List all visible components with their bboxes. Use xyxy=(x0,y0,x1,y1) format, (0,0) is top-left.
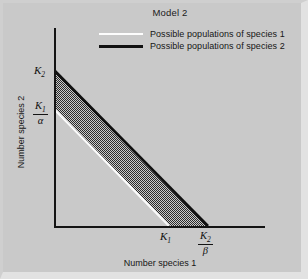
y-tick-k2-subscript: 2 xyxy=(41,70,45,79)
y-tick-k1-alpha-denominator: α xyxy=(33,115,48,126)
x-tick-k2-beta-denominator: β xyxy=(198,245,213,256)
chart-legend: Possible populations of species 1 Possib… xyxy=(99,28,285,52)
x-tick-k1-subscript: 1 xyxy=(167,236,171,245)
figure-model-2: Model 2 Possible populations of species … xyxy=(0,0,308,279)
x-tick-label-k2-over-beta: K2 β xyxy=(198,230,213,256)
x-axis-line xyxy=(54,226,265,228)
y-tick-label-k2: K2 xyxy=(34,64,45,79)
y-tick-k1-alpha-num-subscript: 1 xyxy=(42,105,46,114)
legend-item-species-2: Possible populations of species 2 xyxy=(99,40,285,52)
x-tick-k2-beta-num-base: K xyxy=(200,230,207,241)
y-tick-k1-alpha-num-base: K xyxy=(35,100,42,111)
legend-label-species-1: Possible populations of species 1 xyxy=(150,29,285,39)
x-tick-label-k1: K1 xyxy=(160,230,171,245)
isocline-species-2-line xyxy=(55,71,208,226)
legend-label-species-2: Possible populations of species 2 xyxy=(150,41,285,51)
x-tick-k2-beta-numerator: K2 xyxy=(198,230,213,245)
y-axis-line xyxy=(54,28,56,228)
x-tick-k2-beta-num-subscript: 2 xyxy=(207,235,211,244)
legend-item-species-1: Possible populations of species 1 xyxy=(99,28,285,40)
legend-swatch-species-1-icon xyxy=(99,33,143,35)
y-tick-k1-alpha-numerator: K1 xyxy=(33,100,48,115)
legend-swatch-species-2-icon xyxy=(99,45,143,48)
y-tick-label-k1-over-alpha: K1 α xyxy=(33,100,48,126)
